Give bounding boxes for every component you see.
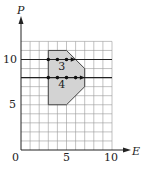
y-tick-10: 10	[3, 53, 17, 66]
y-axis-label: P	[16, 4, 25, 17]
x-tick-5: 5	[63, 151, 70, 164]
region-label: 3	[58, 60, 65, 73]
dot-marker	[47, 58, 51, 62]
x-tick-10: 10	[104, 151, 118, 164]
dot-marker	[47, 76, 51, 80]
region-label: 4	[58, 78, 65, 91]
y-tick-5: 5	[9, 98, 16, 111]
x-axis-label: E	[131, 145, 140, 158]
x-axis-arrow-icon	[123, 148, 131, 153]
dot-marker	[74, 76, 78, 80]
y-axis-arrow-icon	[19, 16, 24, 24]
diagram-canvas: 34 P E 0 5 10 5 10	[0, 0, 146, 170]
x-tick-0: 0	[12, 151, 19, 164]
